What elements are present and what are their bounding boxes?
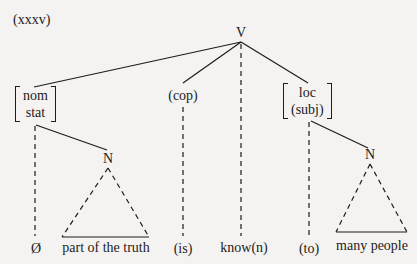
- root-node-v: V: [236, 25, 246, 41]
- leaf-many-people: many people: [336, 238, 408, 254]
- leaf-known: know(n): [220, 240, 267, 256]
- leaf-is: (is): [174, 241, 193, 257]
- feature-bracket-loc-subj: loc (subj): [283, 83, 332, 119]
- triangle-left-side-a: [62, 168, 108, 237]
- feature-nom: nom: [23, 87, 48, 104]
- triangle-right-side-b: [370, 164, 407, 232]
- feature-loc: loc: [291, 84, 324, 101]
- edge-locsubj-n: [311, 121, 368, 148]
- tree-edges: [0, 0, 417, 264]
- node-n-left: N: [103, 151, 113, 167]
- example-number: (xxxv): [13, 12, 50, 28]
- leaf-part-of-the-truth: part of the truth: [62, 240, 149, 256]
- edge-v-locsubj: [241, 42, 308, 83]
- tree-diagram: (xxxv) V nom stat (cop) loc (subj) N N Ø…: [0, 0, 417, 264]
- node-cop: (cop): [168, 88, 198, 104]
- edge-nomstat-n: [36, 125, 107, 150]
- triangle-left-side-b: [108, 168, 149, 237]
- node-n-right: N: [365, 147, 375, 163]
- leaf-to: (to): [299, 241, 319, 257]
- feature-bracket-nom-stat: nom stat: [15, 86, 56, 122]
- triangle-right-side-a: [336, 164, 370, 232]
- feature-stat: stat: [23, 104, 48, 121]
- feature-subj: (subj): [291, 101, 324, 118]
- leaf-zero: Ø: [31, 241, 41, 257]
